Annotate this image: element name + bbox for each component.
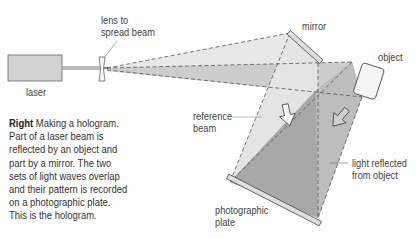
reflected-label-line1: light reflected: [352, 157, 407, 169]
caption-line: part by a mirror. The two: [9, 157, 135, 170]
laser-body: [8, 55, 62, 81]
lens-label-line1: lens to: [101, 14, 155, 26]
reference-label-line2: beam: [193, 122, 232, 134]
object-label: object: [378, 51, 403, 63]
laser-label: laser: [26, 86, 46, 98]
lens-leader: [104, 41, 117, 58]
lens-label: lens to spread beam: [101, 14, 155, 38]
figure-caption: Right Making a hologram. Part of a laser…: [9, 117, 135, 223]
caption-line: sets of light waves overlap: [9, 170, 135, 183]
caption-line: and their pattern is recorded: [9, 183, 135, 196]
caption-line: reflected by an object and: [9, 143, 135, 156]
caption-line: This is the hologram.: [9, 209, 135, 222]
caption-line: on a photographic plate.: [9, 196, 135, 209]
caption-lead: Right: [9, 117, 33, 129]
caption-line: Making a hologram.: [33, 117, 119, 129]
reference-label-line1: reference: [193, 110, 232, 122]
mirror-label: mirror: [302, 20, 326, 32]
reflected-label-line2: from object: [352, 169, 407, 181]
caption-line: Part of a laser beam is: [9, 130, 135, 143]
light-reflected-label: light reflected from object: [352, 157, 407, 181]
lens-label-line2: spread beam: [101, 26, 155, 38]
object: [353, 62, 385, 100]
plate-label-line1: photographic: [215, 204, 268, 216]
reference-beam-label: reference beam: [193, 110, 232, 134]
plate-label-line2: plate: [215, 216, 268, 228]
photographic-plate-label: photographic plate: [215, 204, 268, 228]
